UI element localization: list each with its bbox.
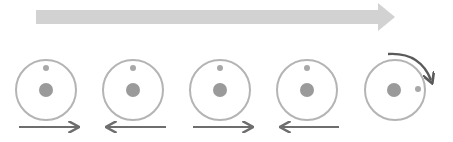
stage-2 — [103, 60, 166, 127]
center-dot — [39, 83, 53, 97]
center-dot — [126, 83, 140, 97]
rotate-clockwise-icon — [388, 54, 431, 80]
stage-4 — [277, 60, 339, 127]
center-dot — [387, 83, 401, 97]
oscillation-diagram — [0, 0, 453, 142]
small-dot — [415, 86, 421, 92]
small-dot — [304, 65, 310, 71]
center-dot — [213, 83, 227, 97]
center-dot — [300, 83, 314, 97]
stage-1 — [16, 60, 78, 127]
stage-5 — [365, 54, 431, 120]
small-dot — [217, 65, 223, 71]
small-dot — [130, 65, 136, 71]
small-dot — [43, 65, 49, 71]
stage-3 — [190, 60, 252, 127]
progress-arrow-icon — [36, 3, 395, 31]
